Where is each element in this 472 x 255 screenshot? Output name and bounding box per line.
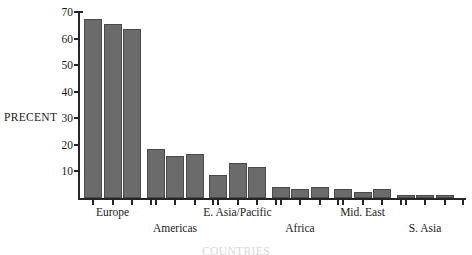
x-tick-mark — [237, 199, 239, 205]
y-tick-mark — [74, 144, 80, 146]
y-tick-label: 70 — [62, 6, 74, 18]
x-tick-mark — [275, 199, 277, 205]
bar — [334, 189, 352, 198]
category-label: S. Asia — [409, 222, 442, 234]
y-tick-mark — [74, 91, 80, 93]
y-tick-label: 30 — [62, 112, 74, 124]
x-tick-mark — [217, 199, 219, 205]
category-label: Europe — [96, 206, 129, 218]
plot-area: 10203040506070 — [78, 12, 466, 200]
bar — [291, 189, 309, 198]
bar — [436, 195, 454, 198]
x-tick-mark — [462, 199, 464, 205]
x-tick-mark — [381, 199, 383, 205]
x-tick-mark — [362, 199, 364, 205]
x-tick-mark — [444, 199, 446, 205]
bar — [166, 156, 184, 198]
bar — [84, 19, 102, 198]
bar — [397, 195, 415, 198]
bar — [416, 195, 434, 198]
bar — [147, 149, 165, 198]
category-label: Mid. East — [340, 206, 385, 218]
x-tick-mark — [342, 199, 344, 205]
y-tick-label: 50 — [62, 59, 74, 71]
x-tick-mark — [174, 199, 176, 205]
x-tick-mark — [150, 199, 152, 205]
bar — [229, 163, 247, 198]
y-tick-mark — [74, 38, 80, 40]
y-axis-label: PRECENT — [4, 111, 57, 123]
x-tick-mark — [337, 199, 339, 205]
y-tick-label: 10 — [62, 165, 74, 177]
x-tick-mark — [424, 199, 426, 205]
category-label: E. Asia/Pacific — [203, 206, 271, 218]
x-tick-mark — [112, 199, 114, 205]
x-tick-mark — [319, 199, 321, 205]
y-tick-mark — [74, 170, 80, 172]
bar — [209, 175, 227, 198]
y-tick-label: 60 — [62, 33, 74, 45]
x-axis-title: COUNTRIES — [202, 245, 270, 255]
y-tick-mark — [74, 117, 80, 119]
bar — [373, 189, 391, 198]
x-tick-mark — [92, 199, 94, 205]
bar — [272, 187, 290, 198]
category-label: Americas — [153, 222, 197, 234]
bar — [311, 187, 329, 198]
x-tick-mark — [400, 199, 402, 205]
y-tick-mark — [74, 64, 80, 66]
x-tick-mark — [299, 199, 301, 205]
x-tick-mark — [280, 199, 282, 205]
x-axis-line — [78, 198, 466, 200]
category-label: Africa — [285, 222, 314, 234]
bar — [186, 154, 204, 198]
x-tick-mark — [405, 199, 407, 205]
y-tick-label: 20 — [62, 139, 74, 151]
x-tick-mark — [256, 199, 258, 205]
x-tick-mark — [212, 199, 214, 205]
bar — [104, 24, 122, 198]
y-tick-label: 40 — [62, 86, 74, 98]
x-tick-mark — [155, 199, 157, 205]
x-tick-mark — [194, 199, 196, 205]
bar-chart: PRECENT 10203040506070 EuropeAmericasE. … — [0, 0, 472, 255]
bar — [248, 167, 266, 198]
y-tick-mark — [74, 11, 80, 13]
x-tick-mark — [131, 199, 133, 205]
bar — [123, 29, 141, 198]
bar — [354, 192, 372, 198]
